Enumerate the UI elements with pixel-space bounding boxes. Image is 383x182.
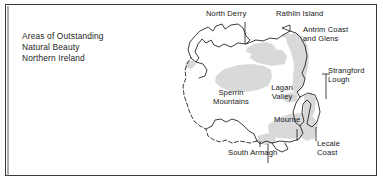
map-label-lagan-valley: Lagan Valley — [262, 83, 302, 101]
map-label-lagan-line-2: Valley — [262, 92, 302, 101]
aonb-area-west-coast-patch — [185, 60, 196, 69]
rathlin-island-arrow-icon — [282, 25, 290, 31]
map-label-lagan-line-1: Lagan — [262, 83, 302, 92]
map-label-lecale-line-2: Coast — [317, 148, 340, 157]
aonb-area-north-central-patch — [250, 49, 287, 66]
coast-inner-west-detail — [196, 62, 207, 78]
map-label-sperrin-line-2: Mountains — [204, 97, 258, 106]
map-figure: Areas of Outstanding Natural Beauty Nort… — [0, 0, 383, 182]
map-label-rathlin-island: Rathlin Island — [276, 9, 323, 18]
map-label-north-derry: North Derry — [206, 9, 246, 18]
map-label-strangford-lough: Strangford Lough — [328, 66, 364, 84]
map-label-lecale-coast: Lecale Coast — [317, 139, 340, 157]
aonb-area-strangford-lough — [303, 93, 316, 122]
map-label-sperrin-mountains: Sperrin Mountains — [204, 88, 258, 106]
map-label-lecale-line-1: Lecale — [317, 139, 340, 148]
map-label-antrim-coast-and-glens: Antrim Coast and Glens — [303, 25, 348, 43]
map-label-antrim-line-2: and Glens — [303, 34, 348, 43]
map-label-south-armagh: South Armagh — [228, 148, 277, 157]
map-label-strangford-line-2: Lough — [328, 75, 364, 84]
map-label-sperrin-line-1: Sperrin — [204, 88, 258, 97]
border-south-armagh-jog — [206, 119, 257, 141]
coast-north-derry-peninsula — [188, 24, 250, 62]
map-label-antrim-line-1: Antrim Coast — [303, 25, 348, 34]
map-label-mourne: Mourne — [274, 115, 300, 124]
map-label-strangford-line-1: Strangford — [328, 66, 364, 75]
